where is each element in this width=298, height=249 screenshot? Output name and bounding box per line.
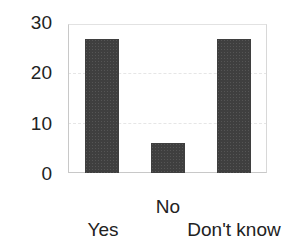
x-label-no: No — [151, 196, 185, 218]
y-tick-20: 20 — [12, 63, 52, 83]
bar-chart: 30 20 10 0 Yes No Don't know — [0, 0, 298, 249]
x-label-yes: Yes — [84, 219, 122, 241]
y-tick-10: 10 — [12, 114, 52, 134]
bar-yes — [85, 39, 119, 173]
y-tick-30: 30 — [12, 13, 52, 33]
bar-no — [151, 143, 185, 173]
bar-dont-know — [217, 39, 251, 173]
y-tick-0: 0 — [12, 164, 52, 184]
x-label-dont-know: Don't know — [184, 219, 284, 241]
